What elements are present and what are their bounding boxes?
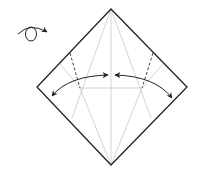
- fold-arrows: [52, 75, 172, 98]
- left-kite-crease-lower: [80, 88, 111, 165]
- left-kite-crease-upper: [72, 9, 111, 118]
- right-diagonal-crease: [142, 64, 163, 88]
- left-fold-arrow: [52, 75, 108, 96]
- right-kite-crease-upper: [111, 9, 151, 118]
- left-diagonal-crease: [60, 64, 80, 88]
- turn-over-icon: [18, 27, 47, 41]
- valley-fold-lines: [70, 53, 153, 88]
- origami-diagram: [0, 0, 199, 180]
- left-valley-fold: [70, 53, 80, 88]
- right-kite-crease-lower: [111, 88, 142, 165]
- paper-outline: [37, 9, 187, 165]
- crease-lines: [60, 9, 163, 165]
- right-valley-fold: [142, 53, 153, 88]
